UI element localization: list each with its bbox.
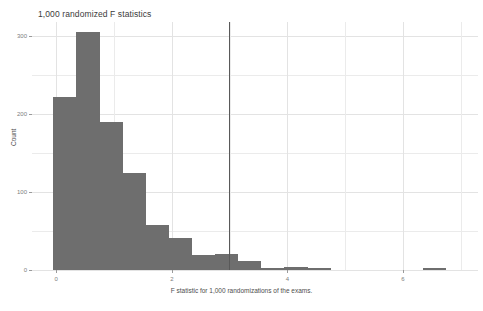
- x-axis-title: F statistic for 1,000 randomizations of …: [0, 287, 483, 294]
- x-tick-mark: [287, 270, 288, 273]
- x-tick-mark: [403, 270, 404, 273]
- x-tick-label: 2: [170, 276, 173, 282]
- x-tick-label: 4: [286, 276, 289, 282]
- histogram-chart: 1,000 randomized F statistics Count 0100…: [0, 0, 483, 311]
- x-tick-label: 6: [401, 276, 404, 282]
- x-tick-mark: [172, 270, 173, 273]
- x-tick-label: 0: [55, 276, 58, 282]
- x-tick-mark: [56, 270, 57, 273]
- x-axis-ticks: 0246: [0, 0, 483, 311]
